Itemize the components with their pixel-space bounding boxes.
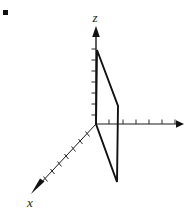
corner-dot-marker — [3, 10, 8, 15]
coordinate-axes-diagram: z x — [0, 0, 192, 212]
x-axis-arrow-icon — [31, 179, 45, 195]
y-axis-arrow-icon — [176, 120, 184, 128]
figure-root: z x — [0, 0, 192, 212]
region-outline — [96, 50, 118, 182]
x-axis-group — [31, 124, 96, 194]
region-quadrilateral — [96, 50, 118, 182]
y-axis-group — [96, 120, 184, 128]
z-axis-arrow-icon — [92, 26, 100, 37]
z-axis-label: z — [91, 10, 97, 25]
y-axis-ticks — [109, 120, 175, 125]
x-axis-label: x — [26, 195, 33, 210]
